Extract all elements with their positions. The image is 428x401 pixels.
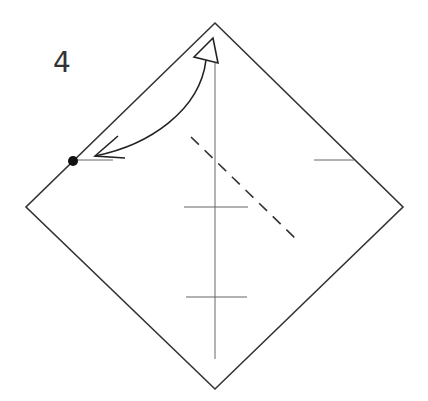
reference-dot xyxy=(68,156,78,166)
origami-diagram: 4 xyxy=(0,0,428,401)
diagram-canvas xyxy=(0,0,428,401)
